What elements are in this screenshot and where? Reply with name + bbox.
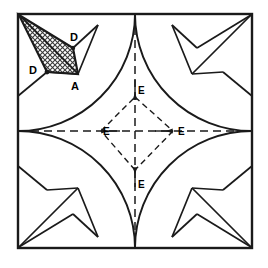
pinwheel-br-spoke-3 bbox=[223, 166, 252, 190]
dashed-rhombus-E-E-E-E bbox=[101, 97, 173, 170]
pinwheel-tl-spoke-4 bbox=[78, 25, 98, 74]
label-A: A bbox=[71, 80, 79, 92]
pinwheel-bottom-right bbox=[172, 166, 252, 247]
pinwheel-bl-spoke-4 bbox=[78, 188, 98, 237]
label-E-left: E bbox=[103, 126, 110, 137]
pinwheel-tr-spoke-1 bbox=[192, 15, 251, 74]
diamond-edge-right-bottom bbox=[135, 131, 173, 170]
pinwheel-br-spoke-1 bbox=[192, 188, 251, 247]
pinwheel-bl-spoke-5 bbox=[73, 214, 98, 237]
e-point-arrows bbox=[102, 80, 172, 187]
diagram-svg: D D A E E E E bbox=[0, 0, 268, 268]
label-D-left: D bbox=[29, 64, 37, 76]
pinwheel-br-spoke-4 bbox=[172, 188, 192, 237]
pinwheel-top-right bbox=[172, 15, 252, 96]
pinwheel-bl-spoke-1 bbox=[19, 188, 78, 247]
pinwheel-tr-spoke-3 bbox=[223, 72, 252, 96]
diamond-edge-top-right bbox=[135, 97, 173, 131]
pinwheel-tr-spoke-4 bbox=[172, 25, 192, 74]
pinwheel-br-spoke-2 bbox=[192, 188, 223, 190]
label-E-bottom: E bbox=[138, 179, 145, 190]
pinwheel-tr-spoke-2 bbox=[192, 72, 223, 74]
pinwheel-bottom-left bbox=[18, 166, 98, 247]
label-D-upper: D bbox=[70, 31, 78, 43]
label-E-top: E bbox=[138, 85, 145, 96]
pinwheel-br-spoke-5 bbox=[172, 214, 197, 237]
pinwheel-tr-spoke-5 bbox=[172, 25, 197, 48]
label-E-right: E bbox=[178, 126, 185, 137]
pinwheel-bl-spoke-3 bbox=[18, 166, 47, 190]
geometric-diagram-canvas: D D A E E E E bbox=[0, 0, 268, 268]
pinwheel-bl-spoke-2 bbox=[47, 188, 78, 190]
